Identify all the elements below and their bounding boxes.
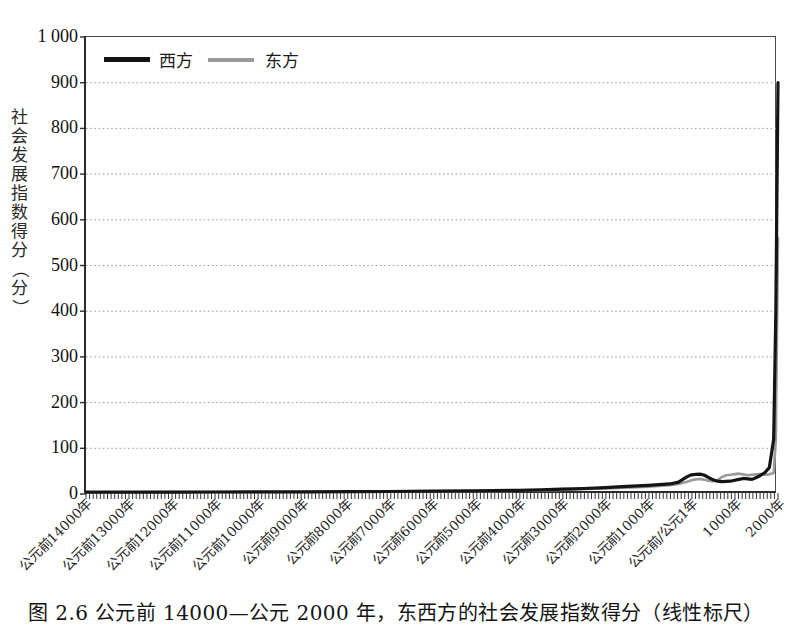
x-axis-tick-labels: 公元前14000年公元前13000年公元前12000年公元前11000年公元前1… <box>0 496 792 591</box>
y-axis-tick-label: 700 <box>24 164 78 182</box>
y-axis-tick-label: 800 <box>24 118 78 136</box>
y-axis-tick-label: 300 <box>24 347 78 365</box>
y-axis-tick-label: 500 <box>24 256 78 274</box>
y-axis-tick-label: 200 <box>24 393 78 411</box>
legend-swatch-east <box>208 58 254 62</box>
x-axis-tick-label: 1000年 <box>700 496 743 539</box>
plot-area: 西方 东方 <box>84 36 776 493</box>
chart-legend: 西方 东方 <box>104 47 305 72</box>
data-series-lines <box>86 37 778 494</box>
y-axis-tick-label: 100 <box>24 438 78 456</box>
x-axis-tick-label: 2000年 <box>743 496 786 539</box>
figure-root: 社会发展指数得分（分） 1 00090080070060050040030020… <box>0 0 792 630</box>
legend-label-east: 东方 <box>263 47 305 72</box>
figure-caption: 图 2.6 公元前 14000—公元 2000 年，东西方的社会发展指数得分（线… <box>0 600 792 626</box>
y-axis-tick-label: 600 <box>24 210 78 228</box>
y-axis-tick-label: 900 <box>24 73 78 91</box>
series-line-west <box>86 83 778 492</box>
y-axis-tick-label: 1 000 <box>24 27 78 45</box>
legend-label-west: 西方 <box>159 47 199 72</box>
y-axis-tick-label: 400 <box>24 301 78 319</box>
series-line-east <box>86 238 778 492</box>
legend-swatch-west <box>104 57 150 62</box>
